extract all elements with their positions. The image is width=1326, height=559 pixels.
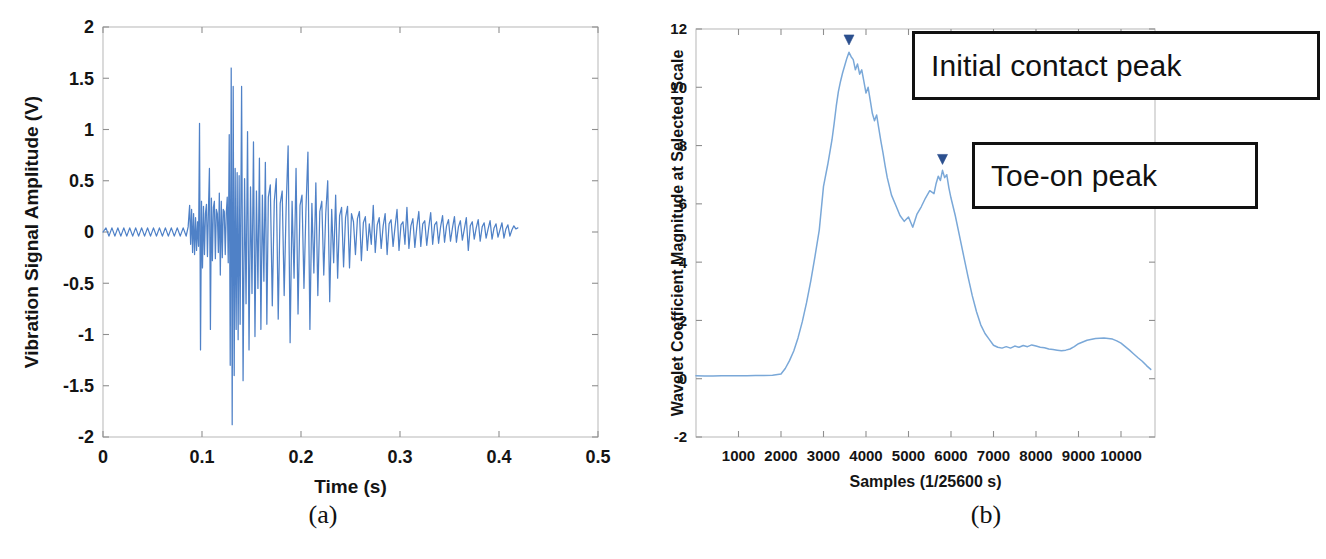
x-tick-label: 0.1 [189, 447, 214, 467]
data-line [696, 52, 1151, 376]
figure-container: 00.10.20.30.40.5-2-1.5-1-0.500.511.52Tim… [0, 0, 1326, 559]
x-tick-label: 0.3 [387, 447, 412, 467]
x-tick-label: 9000 [1062, 447, 1095, 464]
y-tick-label: 0.5 [69, 171, 94, 191]
x-tick-label: 2000 [764, 447, 797, 464]
peak-marker-toe-on-peak [938, 154, 948, 164]
peak-marker-initial-contact-peak [844, 35, 854, 45]
x-tick-label: 5000 [892, 447, 925, 464]
x-tick-label: 4000 [849, 447, 882, 464]
y-tick-label: 1 [84, 120, 94, 140]
x-tick-label: 6000 [934, 447, 967, 464]
y-axis-title: Wavelet Coefficient Magnitude at Selecte… [669, 50, 686, 417]
y-tick-label: 2 [84, 17, 94, 37]
x-tick-label: 0.5 [585, 447, 610, 467]
y-tick-label: 1.5 [69, 69, 94, 89]
x-tick-label: 10000 [1100, 447, 1142, 464]
x-tick-label: 3000 [807, 447, 840, 464]
x-axis-title: Samples (1/25600 s) [849, 473, 1001, 490]
y-tick-label: 0 [84, 222, 94, 242]
annotation-initial-contact-peak-label: Initial contact peak [915, 49, 1181, 83]
y-tick-label: -1.5 [63, 376, 94, 396]
y-tick-label: -2 [674, 428, 687, 445]
y-tick-label: -2 [78, 427, 94, 447]
x-tick-label: 1000 [722, 447, 755, 464]
x-tick-label: 0.4 [486, 447, 511, 467]
annotation-toe-on-peak-label: Toe-on peak [975, 159, 1157, 193]
x-tick-label: 0 [98, 447, 108, 467]
annotation-initial-contact-peak: Initial contact peak [912, 31, 1320, 100]
panel-b-caption: (b) [946, 500, 1026, 530]
panel-a-vibration-signal: 00.10.20.30.40.5-2-1.5-1-0.500.511.52Tim… [0, 0, 663, 559]
x-tick-label: 8000 [1019, 447, 1052, 464]
data-line [103, 68, 518, 425]
x-axis-title: Time (s) [314, 476, 387, 497]
y-axis-title: Vibration Signal Amplitude (V) [21, 96, 42, 368]
x-tick-label: 7000 [977, 447, 1010, 464]
y-tick-label: -1 [78, 325, 94, 345]
x-tick-label: 0.2 [288, 447, 313, 467]
annotation-toe-on-peak: Toe-on peak [972, 142, 1258, 209]
vibration-signal-chart: 00.10.20.30.40.5-2-1.5-1-0.500.511.52Tim… [0, 0, 663, 500]
y-tick-label: -0.5 [63, 274, 94, 294]
y-tick-label: 12 [670, 20, 687, 37]
panel-a-caption: (a) [283, 500, 363, 530]
